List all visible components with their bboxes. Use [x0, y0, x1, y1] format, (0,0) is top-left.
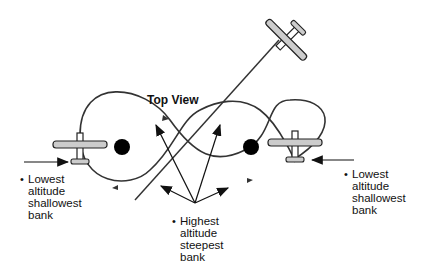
right-label: • Lowest altitude shallowest bank: [352, 168, 406, 216]
left-airplane-icon: [53, 133, 107, 164]
entry-airplane-icon: [259, 7, 319, 67]
diagram-title: Top View: [147, 93, 199, 107]
left-label: • Lowest altitude shallowest bank: [28, 173, 82, 221]
bullet-icon: •: [344, 168, 348, 180]
right-pylon-icon: [243, 139, 259, 155]
bullet-icon: •: [172, 215, 176, 227]
bullet-icon: •: [20, 173, 24, 185]
figure-eight-path: [80, 92, 325, 181]
entry-line: [135, 40, 279, 200]
right-airplane-icon: [268, 131, 322, 162]
center-label: • Highest altitude steepest bank: [180, 215, 223, 263]
left-pylon-icon: [114, 139, 130, 155]
